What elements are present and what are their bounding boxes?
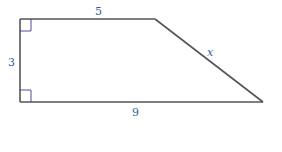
label-left: 3: [8, 56, 15, 69]
slant-edge: [155, 19, 263, 102]
trapezoid-diagram: 5 3 x 9: [0, 0, 282, 152]
right-angle-marker-top-left: [20, 19, 31, 31]
right-angle-marker-bottom-left: [20, 90, 31, 102]
label-bottom: 9: [132, 106, 139, 119]
label-top: 5: [95, 5, 102, 18]
label-slant: x: [207, 46, 214, 59]
